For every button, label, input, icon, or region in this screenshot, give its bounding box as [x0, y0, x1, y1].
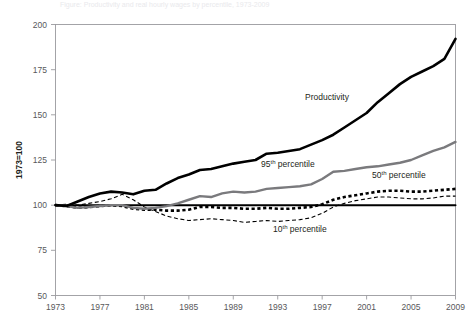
y-axis-title: 1973=100	[14, 141, 24, 179]
x-tick-label: 2009	[446, 302, 465, 312]
y-tick-label: 175	[33, 65, 47, 75]
x-tick-label: 1993	[268, 302, 287, 312]
figure-container: Figure: Productivity and real hourly wag…	[0, 0, 475, 324]
x-tick-label: 1981	[135, 302, 154, 312]
figure-title-cropped: Figure: Productivity and real hourly wag…	[60, 1, 269, 9]
y-tick-label: 100	[33, 200, 47, 210]
y-tick-label: 125	[33, 155, 47, 165]
y-tick-label: 50	[38, 291, 48, 301]
x-tick-label: 1989	[224, 302, 243, 312]
line-chart: Figure: Productivity and real hourly wag…	[0, 0, 475, 324]
series-line-productivity	[56, 39, 456, 206]
series-group	[56, 39, 456, 222]
y-axis-ticks	[51, 25, 56, 296]
x-tick-label: 2001	[357, 302, 376, 312]
x-tick-label: 1985	[179, 302, 198, 312]
x-axis-tick-labels: 1973197719811985198919931997200120052009	[46, 302, 465, 312]
y-tick-label: 200	[33, 20, 47, 30]
x-tick-label: 1997	[313, 302, 332, 312]
y-tick-label: 150	[33, 110, 47, 120]
annotation-p50: 50th percentile	[372, 170, 426, 180]
x-tick-label: 1977	[90, 302, 109, 312]
x-axis-ticks	[56, 296, 456, 300]
y-tick-label: 75	[38, 245, 48, 255]
x-tick-label: 1973	[46, 302, 65, 312]
annotation-productivity: Productivity	[305, 92, 350, 102]
y-axis-tick-labels: 200 175 150 125 100 75 50	[33, 20, 47, 301]
annotation-p95: 95th percentile	[261, 159, 315, 169]
annotation-p10: 10th percentile	[273, 224, 327, 234]
series-line-10th-percentile	[56, 194, 456, 222]
x-tick-label: 2005	[402, 302, 421, 312]
